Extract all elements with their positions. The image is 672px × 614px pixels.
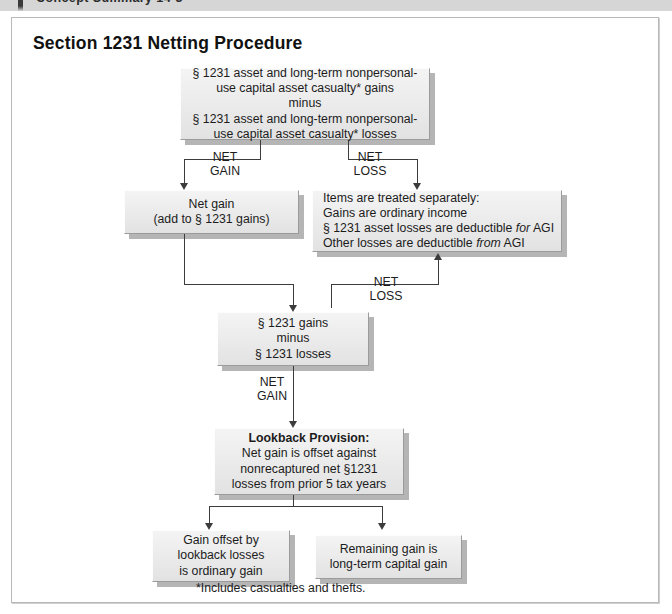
box-top-netting: § 1231 asset and long-term nonpersonal- … <box>180 68 430 140</box>
edge-label-net-gain-2-line2: GAIN <box>250 389 294 403</box>
box-items-line4-a: Other losses are deductible <box>323 236 476 250</box>
connector-lookback-stem <box>293 495 294 506</box>
arrow-to-items-separately <box>413 183 421 190</box>
edge-label-net-loss-1: NET LOSS <box>348 150 392 178</box>
edge-label-net-loss-1-line1: NET <box>348 150 392 164</box>
box-lookback-line1: Net gain is offset against <box>221 446 397 461</box>
box-gml-line3: § 1231 losses <box>224 347 362 362</box>
box-top-netting-line2: use capital asset casualty* gains <box>187 81 423 96</box>
box-items-line3-em: for <box>516 221 530 235</box>
connector-net-loss-drop <box>417 159 418 184</box>
arrow-to-lookback <box>289 421 297 428</box>
page-frame: Section 1231 Netting Procedure § 1231 as… <box>11 17 659 603</box>
box-top-netting-line4: § 1231 asset and long-term nonpersonal- <box>187 112 423 127</box>
box-items-line2: Gains are ordinary income <box>323 206 555 221</box>
box-net-gain-line2: (add to § 1231 gains) <box>131 212 292 227</box>
box-top-netting-line1: § 1231 asset and long-term nonpersonal- <box>187 66 423 81</box>
edge-label-net-gain-1-line1: NET <box>203 150 247 164</box>
arrow-to-items-separately-feedback <box>434 253 442 260</box>
box-ordinary-gain-line1: Gain offset by <box>159 533 283 548</box>
connector-net-gain-drop <box>184 159 185 184</box>
edge-label-net-loss-2-line1: NET <box>364 275 408 289</box>
running-head-fade <box>0 0 672 11</box>
connector-to-ordinary-gain <box>209 506 210 524</box>
edge-label-net-loss-2: NET LOSS <box>364 275 408 303</box>
box-capital-gain: Remaining gain is long-term capital gain <box>315 535 462 579</box>
arrow-to-net-gain <box>180 183 188 190</box>
arrow-to-ordinary-gain <box>205 523 213 530</box>
box-net-gain-line1: Net gain <box>131 197 292 212</box>
box-net-gain: Net gain (add to § 1231 gains) <box>124 190 299 234</box>
connector-to-capital-gain <box>382 506 383 524</box>
footnote: *Includes casualties and thefts. <box>196 581 366 595</box>
box-items-line4-b: AGI <box>501 236 525 250</box>
connector-net-gain-down <box>184 234 185 284</box>
box-items-line1: Items are treated separately: <box>323 191 555 206</box>
box-items-line4-em: from <box>476 236 501 250</box>
edge-label-net-gain-1-line2: GAIN <box>203 164 247 178</box>
box-capital-gain-line1: Remaining gain is <box>322 542 455 557</box>
arrow-to-gains-minus-losses <box>289 305 297 312</box>
edge-label-net-loss-1-line2: LOSS <box>348 164 392 178</box>
edge-label-net-gain-1: NET GAIN <box>203 150 247 178</box>
connector-lookback-split <box>209 506 382 507</box>
box-items-treated-separately: Items are treated separately: Gains are … <box>312 190 562 252</box>
box-ordinary-gain-line3: is ordinary gain <box>159 564 283 579</box>
edge-label-net-loss-2-line2: LOSS <box>364 289 408 303</box>
box-lookback-line3: losses from prior 5 tax years <box>221 477 397 492</box>
box-items-line4: Other losses are deductible from AGI <box>323 236 555 251</box>
connector-net-loss-2-up <box>438 259 439 285</box>
connector-net-loss-2-stem <box>331 284 332 308</box>
box-items-line3: § 1231 asset losses are deductible for A… <box>323 221 555 236</box>
box-lookback-heading: Lookback Provision: <box>221 431 397 446</box>
box-items-line3-a: § 1231 asset losses are deductible <box>323 221 516 235</box>
connector-top-left-stem <box>260 140 261 159</box>
box-gml-line1: § 1231 gains <box>224 316 362 331</box>
box-lookback-provision: Lookback Provision: Net gain is offset a… <box>214 428 404 495</box>
running-head-band: Concept Summary 14-3 <box>0 0 672 11</box>
box-top-netting-line3: minus <box>187 96 423 111</box>
box-ordinary-gain: Gain offset by lookback losses is ordina… <box>152 530 290 582</box>
box-capital-gain-line2: long-term capital gain <box>322 557 455 572</box>
box-gml-line2: minus <box>224 331 362 346</box>
connector-net-gain-across <box>184 284 293 285</box>
connector-into-gains-box <box>293 284 294 306</box>
box-lookback-line2: nonrecaptured net §1231 <box>221 462 397 477</box>
edge-label-net-gain-2-line1: NET <box>250 375 294 389</box>
flowchart-canvas: § 1231 asset and long-term nonpersonal- … <box>12 18 660 604</box>
box-ordinary-gain-line2: lookback losses <box>159 548 283 563</box>
box-top-netting-line5: use capital asset casualty* losses <box>187 127 423 142</box>
edge-label-net-gain-2: NET GAIN <box>250 375 294 403</box>
arrow-to-capital-gain <box>378 523 386 530</box>
box-gains-minus-losses: § 1231 gains minus § 1231 losses <box>217 312 369 366</box>
box-items-line3-b: AGI <box>530 221 554 235</box>
